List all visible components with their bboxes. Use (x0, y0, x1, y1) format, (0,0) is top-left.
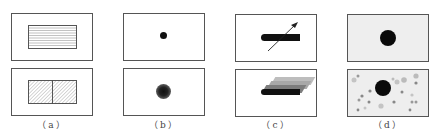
panel-b-top (123, 13, 205, 61)
label-d: （d） (368, 118, 408, 131)
panel-d-bottom (347, 69, 429, 117)
noise-speckles-icon (348, 70, 430, 118)
small-dot-icon (160, 32, 167, 39)
hatched-rectangles-icon (28, 80, 77, 104)
label-a: （a） (32, 118, 72, 131)
striped-rectangle-icon (28, 25, 77, 49)
panel-a-bottom (11, 68, 93, 116)
arrow-icon (236, 15, 318, 63)
large-dot-icon (380, 30, 396, 46)
panel-b-bottom (123, 68, 205, 116)
panel-d-top (347, 14, 429, 62)
label-c: （c） (256, 118, 296, 131)
black-bar-icon (261, 89, 300, 95)
blurred-dot-icon (156, 84, 171, 99)
panel-c-top (235, 14, 317, 62)
panel-a-top (11, 13, 93, 61)
label-b: （b） (144, 118, 184, 131)
panel-c-bottom (235, 69, 317, 117)
